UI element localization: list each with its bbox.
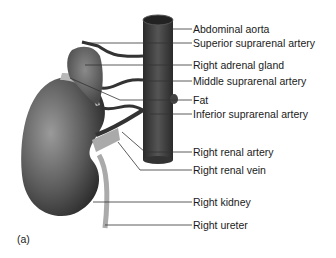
label-right-kidney: Right kidney xyxy=(193,196,251,208)
label-right-renal-artery: Right renal artery xyxy=(193,146,274,158)
label-superior-suprarenal-artery: Superior suprarenal artery xyxy=(193,37,315,49)
right-ureter xyxy=(99,155,107,228)
label-right-renal-vein: Right renal vein xyxy=(193,164,266,176)
label-abdominal-aorta: Abdominal aorta xyxy=(193,23,269,35)
label-fat: Fat xyxy=(193,94,208,106)
abdominal-aorta xyxy=(143,15,173,164)
panel-label: (a) xyxy=(17,233,30,245)
label-inferior-suprarenal-artery: Inferior suprarenal artery xyxy=(193,108,308,120)
fat-nodule xyxy=(170,94,178,104)
label-middle-suprarenal-artery: Middle suprarenal artery xyxy=(193,75,306,87)
label-right-adrenal-gland: Right adrenal gland xyxy=(193,59,284,71)
label-right-ureter: Right ureter xyxy=(193,219,248,231)
